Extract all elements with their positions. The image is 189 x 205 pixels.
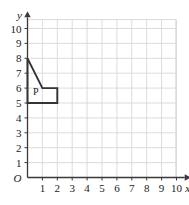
y-tick-label: 1 <box>16 157 22 169</box>
x-tick-label: 2 <box>55 182 61 194</box>
grid-lines <box>28 20 177 178</box>
origin-label: O <box>14 172 22 184</box>
y-axis-arrow-icon <box>24 11 30 17</box>
shape-labels: P <box>33 86 39 97</box>
x-tick-label: 8 <box>144 182 150 194</box>
axis-lines <box>24 11 189 180</box>
y-tick-label: 2 <box>16 142 22 154</box>
x-axis-tick-labels: 12345678910 <box>40 182 183 194</box>
y-tick-label: 6 <box>16 82 22 94</box>
x-tick-label: 10 <box>171 182 183 194</box>
y-tick-label: 9 <box>16 37 22 49</box>
y-tick-label: 8 <box>16 52 22 64</box>
x-tick-label: 5 <box>99 182 105 194</box>
y-tick-label: 4 <box>16 112 22 124</box>
y-axis-tick-labels: 12345678910 <box>11 23 23 169</box>
y-tick-label: 3 <box>16 127 22 139</box>
y-axis-label: y <box>16 9 22 21</box>
shape-label-p: P <box>33 86 39 97</box>
x-tick-label: 6 <box>114 182 120 194</box>
x-tick-label: 4 <box>84 182 90 194</box>
x-tick-label: 3 <box>69 182 75 194</box>
x-axis-arrow-icon <box>185 174 189 180</box>
coordinate-grid-figure: 12345678910 12345678910 O x y P <box>0 0 189 205</box>
y-tick-label: 10 <box>11 23 23 35</box>
x-axis-label: x <box>184 182 189 194</box>
y-tick-label: 5 <box>16 97 22 109</box>
coordinate-plane-svg: 12345678910 12345678910 O x y P <box>0 0 189 205</box>
x-tick-label: 1 <box>40 182 46 194</box>
axis-tick-marks <box>25 29 177 181</box>
y-tick-label: 7 <box>16 67 22 79</box>
x-tick-label: 9 <box>159 182 165 194</box>
x-tick-label: 7 <box>129 182 135 194</box>
